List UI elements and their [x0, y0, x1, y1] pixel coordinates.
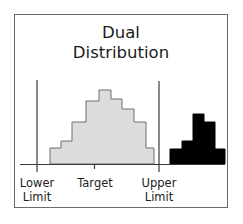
upper-limit-label-line1: Upper — [135, 176, 183, 190]
target-label-line1: Target — [72, 176, 118, 190]
upper-limit-label: Upper Limit — [135, 176, 183, 204]
lower-limit-label-line2: Limit — [14, 190, 60, 204]
secondary-distribution-histogram — [170, 114, 225, 164]
lower-limit-label: Lower Limit — [14, 176, 60, 204]
lower-limit-label-line1: Lower — [14, 176, 60, 190]
main-distribution-histogram — [50, 90, 154, 164]
upper-limit-label-line2: Limit — [135, 190, 183, 204]
target-label: Target — [72, 176, 118, 190]
